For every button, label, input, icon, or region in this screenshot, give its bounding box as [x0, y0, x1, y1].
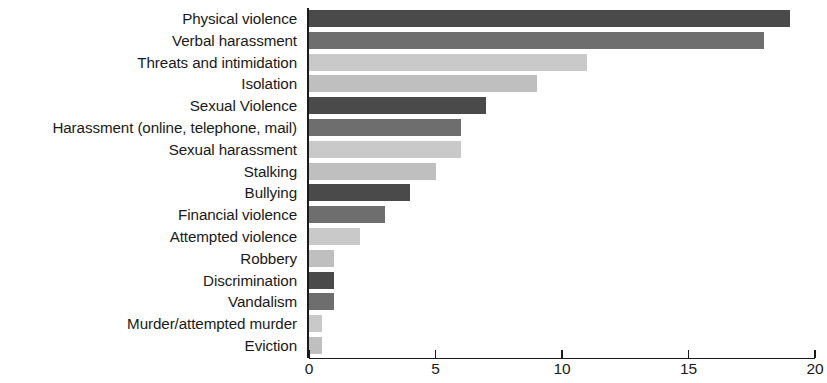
bar-row: Sexual Violence: [0, 95, 827, 117]
x-tick-label: 10: [553, 360, 570, 378]
bar: [309, 163, 436, 180]
category-label: Murder/attempted murder: [127, 313, 297, 335]
category-label: Threats and intimidation: [137, 52, 297, 74]
bar-row: Financial violence: [0, 204, 827, 226]
bar: [309, 206, 385, 223]
x-tick: [308, 350, 310, 358]
category-label: Robbery: [240, 248, 297, 270]
category-label: Bullying: [245, 182, 297, 204]
bar-row: Harassment (online, telephone, mail): [0, 117, 827, 139]
category-label: Isolation: [241, 73, 297, 95]
bar: [309, 97, 486, 114]
bar-row: Physical violence: [0, 8, 827, 30]
bar: [309, 293, 334, 310]
bar: [309, 315, 322, 332]
category-label: Sexual harassment: [169, 139, 297, 161]
bar-row: Eviction: [0, 335, 827, 357]
x-tick-label: 0: [305, 360, 314, 378]
bar: [309, 119, 461, 136]
category-label: Harassment (online, telephone, mail): [52, 117, 297, 139]
category-label: Sexual Violence: [190, 95, 297, 117]
category-label: Verbal harassment: [172, 30, 297, 52]
category-label: Financial violence: [178, 204, 297, 226]
x-tick: [435, 350, 437, 358]
bar: [309, 184, 410, 201]
category-label: Stalking: [244, 161, 297, 183]
plot-area: Physical violenceVerbal harassmentThreat…: [0, 0, 827, 383]
bar: [309, 10, 790, 27]
category-label: Physical violence: [182, 8, 297, 30]
bar: [309, 250, 334, 267]
bar-row: Stalking: [0, 161, 827, 183]
bar-row: Sexual harassment: [0, 139, 827, 161]
bar: [309, 337, 322, 354]
bar-row: Attempted violence: [0, 226, 827, 248]
category-label: Vandalism: [228, 291, 297, 313]
x-tick: [688, 350, 690, 358]
bar: [309, 32, 764, 49]
bar-row: Bullying: [0, 182, 827, 204]
x-tick: [561, 350, 563, 358]
bar-row: Robbery: [0, 248, 827, 270]
bar: [309, 228, 360, 245]
category-label: Attempted violence: [170, 226, 297, 248]
bar-row: Vandalism: [0, 291, 827, 313]
x-tick-label: 15: [680, 360, 697, 378]
bar-row: Murder/attempted murder: [0, 313, 827, 335]
bar-chart: Physical violenceVerbal harassmentThreat…: [0, 0, 827, 383]
x-tick-label: 20: [806, 360, 823, 378]
bar-row: Isolation: [0, 73, 827, 95]
bar-row: Verbal harassment: [0, 30, 827, 52]
bar: [309, 141, 461, 158]
bar: [309, 75, 537, 92]
x-tick-label: 5: [431, 360, 440, 378]
bar-row: Threats and intimidation: [0, 52, 827, 74]
category-label: Discrimination: [203, 270, 297, 292]
bar: [309, 272, 334, 289]
bar: [309, 54, 587, 71]
category-label: Eviction: [245, 335, 297, 357]
y-axis-line: [307, 8, 309, 358]
bar-row: Discrimination: [0, 270, 827, 292]
x-tick: [814, 350, 816, 358]
